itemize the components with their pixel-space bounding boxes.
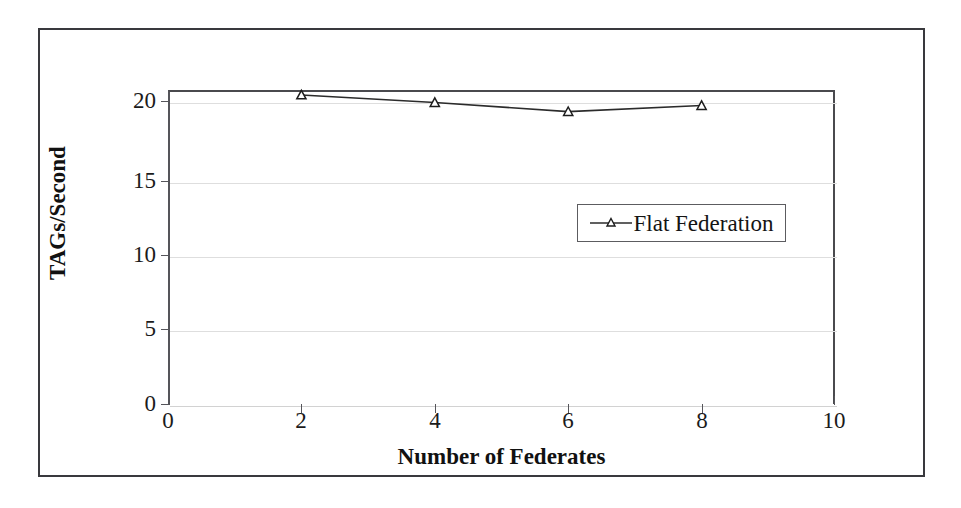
x-tick-label-10: 10 <box>804 408 864 434</box>
x-tick-label-4: 4 <box>405 408 465 434</box>
gridline-10 <box>170 257 837 258</box>
y-axis-title: TAGs/Second <box>45 93 71 333</box>
legend-box[interactable]: Flat Federation <box>577 204 786 242</box>
y-tick-label-15: 15 <box>86 168 156 194</box>
chart-figure: TAGs/Second 20 15 10 5 0 0 2 4 6 8 10 Nu… <box>0 0 961 508</box>
x-axis-title: Number of Federates <box>168 444 835 470</box>
x-tick-label-0: 0 <box>138 408 198 434</box>
gridline-0 <box>170 406 837 407</box>
legend-label-flat-federation: Flat Federation <box>634 212 774 235</box>
triangle-marker-icon <box>590 216 632 230</box>
y-tick-label-5: 5 <box>86 316 156 342</box>
gridline-15 <box>170 183 837 184</box>
gridline-20 <box>170 103 837 104</box>
x-tick-label-8: 8 <box>672 408 732 434</box>
y-tick-label-10: 10 <box>86 242 156 268</box>
plot-area <box>168 90 835 404</box>
x-tick-label-6: 6 <box>538 408 598 434</box>
x-tick-label-2: 2 <box>271 408 331 434</box>
x-tick-mark-0 <box>168 396 169 405</box>
y-tick-label-20: 20 <box>86 88 156 114</box>
gridline-5 <box>170 331 837 332</box>
x-tick-mark-10 <box>834 396 835 405</box>
